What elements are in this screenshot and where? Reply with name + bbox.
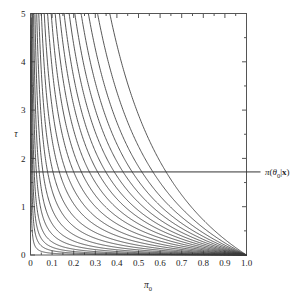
chart-figure: 00.10.20.30.40.50.60.70.80.91.0012345 π0… (0, 0, 307, 296)
x-tick-label: 0.9 (219, 258, 231, 268)
x-tick-label: 0.3 (90, 258, 102, 268)
x-tick-label: 0.5 (133, 258, 145, 268)
annot-close-paren: ) (287, 167, 290, 177)
x-tick-label: 1.0 (241, 258, 253, 268)
x-tick-label: 0.6 (154, 258, 166, 268)
x-tick-label: 0.8 (198, 258, 210, 268)
x-tick-label: 0.2 (68, 258, 79, 268)
x-tick-label: 0.1 (46, 258, 57, 268)
y-tick-label: 1 (21, 202, 26, 212)
x-tick-label: 0.4 (111, 258, 123, 268)
y-tick-label: 5 (21, 9, 26, 19)
contour-plot-svg: 00.10.20.30.40.50.60.70.80.91.0012345 π0… (0, 0, 307, 296)
x-tick-label: 0 (28, 258, 33, 268)
y-tick-label: 2 (21, 154, 26, 164)
y-tick-label: 4 (21, 57, 26, 67)
y-axis-title: τ (14, 129, 18, 139)
x-axis-title-subscript: 0 (149, 285, 152, 292)
x-tick-label: 0.7 (176, 258, 188, 268)
y-tick-label: 0 (21, 250, 26, 260)
y-tick-label: 3 (21, 105, 26, 115)
